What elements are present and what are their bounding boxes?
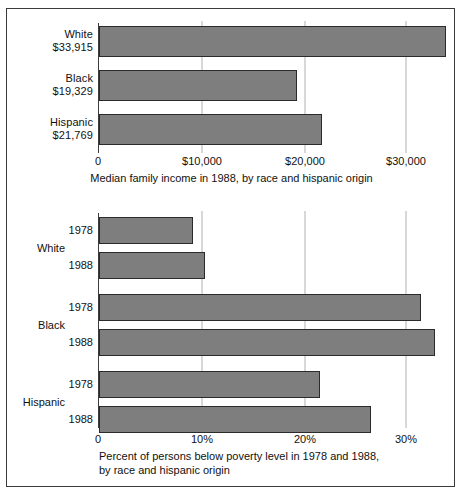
bar-poverty-black-1988 (99, 329, 435, 356)
bar-poverty-hispanic-1978 (99, 371, 320, 398)
xtick-bottom-20: 20% (274, 433, 336, 445)
bar-label-income-white-value: $33,915 (7, 41, 93, 54)
bar-poverty-black-1978 (99, 294, 421, 321)
bar-income-white (99, 26, 446, 57)
bar-poverty-white-1978 (99, 217, 193, 244)
bar-poverty-hispanic-1988 (99, 406, 371, 433)
bar-label-income-black-name: Black (66, 72, 93, 84)
group-label-black: Black (7, 319, 65, 331)
bar-label-income-white: White $33,915 (7, 28, 93, 53)
xtick-top-30000: $30,000 (366, 155, 446, 167)
bar-income-black (99, 70, 297, 101)
bar-label-income-hispanic: Hispanic $21,769 (7, 116, 93, 141)
bar-label-income-white-name: White (64, 28, 93, 40)
xtick-bottom-0: 0 (78, 433, 118, 445)
bar-poverty-white-1988 (99, 252, 205, 279)
caption-top-chart: Median family income in 1988, by race an… (7, 171, 456, 185)
xtick-bottom-30: 30% (375, 433, 437, 445)
group-label-white: White (7, 242, 65, 254)
caption-bottom-chart: Percent of persons below poverty level i… (99, 449, 399, 477)
xtick-top-20000: $20,000 (265, 155, 345, 167)
bar-label-black-1978: 1978 (27, 301, 93, 313)
bar-label-hispanic-1988: 1988 (27, 413, 93, 425)
bar-label-income-hispanic-name: Hispanic (50, 116, 93, 128)
bar-label-income-hispanic-value: $21,769 (7, 129, 93, 142)
bar-label-white-1988: 1988 (27, 259, 93, 271)
xtick-top-10000: $10,000 (162, 155, 242, 167)
xtick-bottom-10: 10% (171, 433, 233, 445)
bar-label-income-black-value: $19,329 (7, 85, 93, 98)
xtick-top-0: 0 (78, 155, 118, 167)
bar-income-hispanic (99, 114, 322, 145)
bar-label-hispanic-1978: 1978 (27, 378, 93, 390)
bar-label-black-1988: 1988 (27, 336, 93, 348)
figure-frame: White $33,915 Black $19,329 Hispanic $21… (6, 8, 455, 487)
bar-label-income-black: Black $19,329 (7, 72, 93, 97)
bar-label-white-1978: 1978 (27, 224, 93, 236)
group-label-hispanic: Hispanic (7, 396, 65, 408)
